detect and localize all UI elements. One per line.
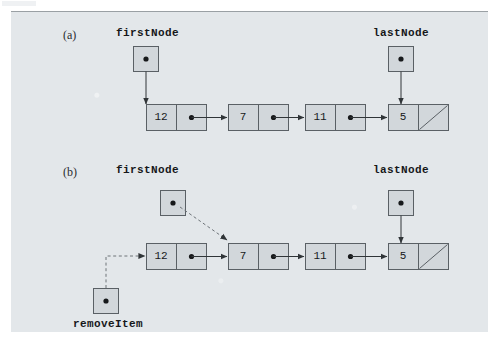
panel-a-letter: (a): [63, 28, 76, 43]
panel-b-node-1-value: 12: [146, 250, 176, 262]
panel-b-firstnode-dashed-arrow: [180, 207, 227, 240]
panel-b-firstnode-label: firstNode: [116, 164, 179, 176]
panel-a-lastnode-pointer-box: [389, 47, 414, 72]
panel-b-firstnode-pointer-box: [161, 191, 186, 216]
panel-a-node-4-value: 5: [388, 111, 418, 123]
panel-b-node-4-value: 5: [388, 250, 418, 262]
panel-b-removeitem-pointer-box: [94, 289, 119, 314]
panel-a-node-1-value: 12: [146, 111, 176, 123]
panel-b-removeitem-dashed-arrow: [106, 256, 145, 288]
panel-b-letter: (b): [63, 165, 77, 180]
panel-b-node-3-value: 11: [305, 250, 335, 262]
panel-a-lastnode-label: lastNode: [373, 27, 429, 39]
panel-b-removeitem-label: removeItem: [73, 318, 143, 330]
panel-a-firstnode-label: firstNode: [116, 27, 179, 39]
panel-b-lastnode-label: lastNode: [373, 164, 429, 176]
panel-b-lastnode-pointer-box: [389, 191, 414, 216]
figure-root: (a) firstNode lastNode 12 7 11 5 (b) fir…: [0, 0, 501, 344]
panel-a-node-2-value: 7: [228, 111, 258, 123]
panel-a-firstnode-pointer-box: [134, 47, 159, 72]
panel-a-node-3-value: 11: [305, 111, 335, 123]
panel-b-node-2-value: 7: [228, 250, 258, 262]
